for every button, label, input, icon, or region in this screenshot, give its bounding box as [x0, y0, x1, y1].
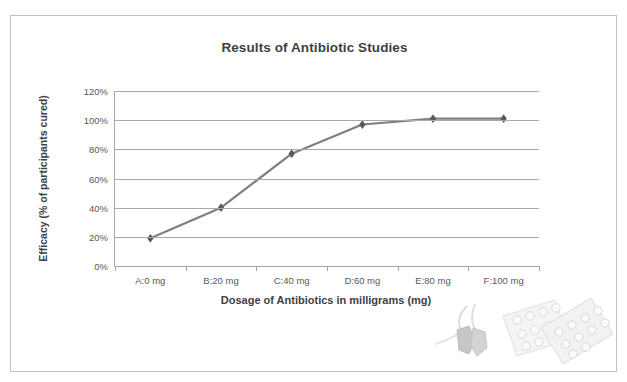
y-axis-tick-label: 120%: [84, 86, 108, 97]
x-axis-tick-label: E:80 mg: [415, 275, 450, 286]
y-axis-title: Efficacy (% of participants cured): [37, 91, 55, 266]
chart-container: Results of Antibiotic Studies Efficacy (…: [10, 15, 617, 372]
y-axis-tick-label: 0%: [94, 261, 108, 272]
y-axis-tick-label: 100%: [84, 115, 108, 126]
x-axis-tick-label: B:20 mg: [203, 275, 238, 286]
x-axis-tick-label: D:60 mg: [344, 275, 380, 286]
x-axis-tick: [115, 266, 116, 271]
x-axis-tick: [256, 266, 257, 271]
y-axis-tick-label: 40%: [89, 202, 108, 213]
gridline: [115, 120, 539, 121]
x-axis-tick: [186, 266, 187, 271]
x-axis-tick-label: A:0 mg: [135, 275, 165, 286]
data-point-marker: [500, 114, 506, 123]
x-axis-tick: [327, 266, 328, 271]
plot-area: 0%20%40%60%80%100%120%A:0 mgB:20 mgC:40 …: [114, 91, 539, 267]
pill-blister-packs-and-stethoscope-image: [429, 288, 617, 372]
data-point-marker: [430, 114, 436, 123]
data-point-marker: [147, 234, 153, 243]
gridline: [115, 179, 539, 180]
x-axis-tick: [468, 266, 469, 271]
x-axis-tick-label: F:100 mg: [484, 275, 524, 286]
gridline: [115, 91, 539, 92]
data-point-marker: [359, 120, 365, 129]
chart-title: Results of Antibiotic Studies: [11, 40, 617, 55]
y-axis-tick-label: 20%: [89, 231, 108, 242]
x-axis-tick: [539, 266, 540, 271]
y-axis-tick-label: 60%: [89, 173, 108, 184]
gridline: [115, 208, 539, 209]
gridline: [115, 237, 539, 238]
x-axis-tick-label: C:40 mg: [274, 275, 310, 286]
x-axis-tick: [398, 266, 399, 271]
y-axis-tick-label: 80%: [89, 144, 108, 155]
gridline: [115, 149, 539, 150]
